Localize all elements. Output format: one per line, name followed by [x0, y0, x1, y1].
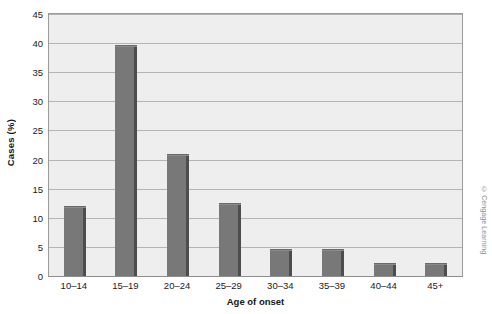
y-tick-label-30: 30 [8, 96, 48, 107]
bar-slot [359, 14, 411, 276]
bar-shadow-edge [444, 264, 447, 276]
x-axis-tick-labels: 10–1415–1920–2425–2930–3435–3940–4445+ [48, 280, 463, 296]
bar-top-edge [64, 207, 86, 208]
bar [322, 249, 344, 276]
bar-slot [101, 14, 153, 276]
x-tick-label-3: 25–29 [215, 280, 241, 291]
bar [64, 206, 86, 276]
y-tick-label-0: 0 [8, 271, 48, 282]
bar-slot [49, 14, 101, 276]
copyright-credit-text: © Cengage Learning [481, 186, 488, 254]
bar-shadow-edge [186, 155, 189, 276]
bar-top-edge [167, 155, 189, 156]
figure-bar-chart: Cases (%) 051015202530354045 10–1415–192… [0, 0, 492, 314]
x-tick-label-2: 20–24 [164, 280, 190, 291]
y-tick-label-5: 5 [8, 241, 48, 252]
bar-shadow-edge [83, 207, 86, 276]
bar-slot [256, 14, 308, 276]
bar-top-edge [270, 250, 292, 251]
bar-shadow-edge [134, 46, 137, 276]
plot-inner [49, 14, 462, 276]
gridline-0 [49, 276, 462, 277]
y-tick-label-10: 10 [8, 212, 48, 223]
bar [167, 154, 189, 276]
bar-shadow-edge [393, 264, 396, 276]
x-tick-label-0: 10–14 [61, 280, 87, 291]
x-tick-label-6: 40–44 [370, 280, 396, 291]
x-tick-label-1: 15–19 [112, 280, 138, 291]
bar-slot [307, 14, 359, 276]
bar [374, 263, 396, 276]
copyright-credit: © Cengage Learning [477, 186, 491, 282]
bar-top-edge [219, 204, 241, 205]
x-tick-label-5: 35–39 [319, 280, 345, 291]
y-tick-label-40: 40 [8, 38, 48, 49]
y-tick-label-45: 45 [8, 9, 48, 20]
bar-top-edge [425, 264, 447, 265]
bar-slot [152, 14, 204, 276]
bar-slot [204, 14, 256, 276]
bar [270, 249, 292, 276]
y-tick-label-15: 15 [8, 183, 48, 194]
bar-shadow-edge [289, 250, 292, 276]
bar-slot [410, 14, 462, 276]
bar-shadow-edge [341, 250, 344, 276]
plot-area [48, 13, 463, 277]
x-tick-label-4: 30–34 [267, 280, 293, 291]
x-tick-label-7: 45+ [427, 280, 443, 291]
x-axis-title: Age of onset [48, 296, 463, 307]
bar [219, 203, 241, 276]
bar-top-edge [322, 250, 344, 251]
bar [115, 45, 137, 276]
bar [425, 263, 447, 276]
bar-top-edge [374, 264, 396, 265]
bar-top-edge [115, 46, 137, 47]
y-axis-tick-labels: 051015202530354045 [0, 13, 48, 277]
bar-shadow-edge [238, 204, 241, 276]
y-tick-label-25: 25 [8, 125, 48, 136]
y-tick-label-35: 35 [8, 67, 48, 78]
y-tick-label-20: 20 [8, 154, 48, 165]
